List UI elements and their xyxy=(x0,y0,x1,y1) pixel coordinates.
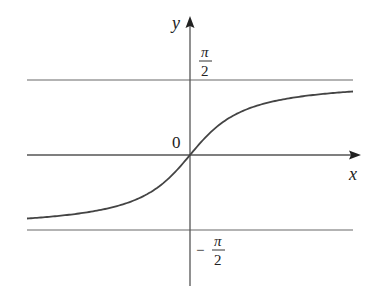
svg-text:2: 2 xyxy=(201,63,209,79)
upper-asymptote-label: π 2 xyxy=(199,44,212,79)
x-axis-label: x xyxy=(348,164,357,184)
arctan-graph: y x 0 π 2 − π 2 xyxy=(0,0,386,299)
svg-text:2: 2 xyxy=(214,252,222,268)
origin-label: 0 xyxy=(172,133,181,152)
svg-text:π: π xyxy=(214,233,222,249)
lower-asymptote-label: − π 2 xyxy=(196,233,225,268)
svg-text:−: − xyxy=(196,242,204,258)
svg-text:π: π xyxy=(201,44,209,60)
y-axis-label: y xyxy=(170,13,180,33)
